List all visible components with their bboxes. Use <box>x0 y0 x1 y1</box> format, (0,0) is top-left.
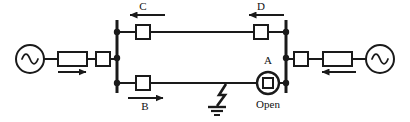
bus-node-right-top <box>283 29 289 35</box>
breaker-c[interactable] <box>136 25 150 39</box>
label-a-status: Open <box>256 98 280 110</box>
label-b: B <box>141 100 148 112</box>
bus-node-left-mid <box>114 55 120 61</box>
bottom-transmission-line: B A Open <box>117 54 287 115</box>
breaker-a-square-icon <box>263 78 273 88</box>
left-transformer[interactable] <box>58 52 87 66</box>
right-bus[interactable] <box>283 20 289 93</box>
right-transformer[interactable] <box>323 52 352 66</box>
bus-node-right-bottom <box>283 80 289 86</box>
right-generator[interactable] <box>366 45 394 73</box>
diagram-canvas: C D B A Open <box>0 0 410 122</box>
single-line-diagram: C D B A Open <box>0 0 410 122</box>
label-d: D <box>257 0 265 12</box>
breaker-d[interactable] <box>254 25 268 39</box>
breaker-left-feed[interactable] <box>96 52 110 66</box>
label-a: A <box>264 54 272 66</box>
breaker-b[interactable] <box>136 76 150 90</box>
breaker-a-open[interactable] <box>257 72 279 94</box>
right-source-branch <box>286 45 394 73</box>
label-c: C <box>139 0 146 12</box>
lightning-bolt-icon <box>217 84 226 106</box>
ground-fault-icon <box>208 84 226 115</box>
left-generator[interactable] <box>16 45 44 73</box>
top-transmission-line: C D <box>117 0 287 39</box>
left-source-branch <box>16 45 118 73</box>
breaker-right-feed[interactable] <box>294 52 308 66</box>
